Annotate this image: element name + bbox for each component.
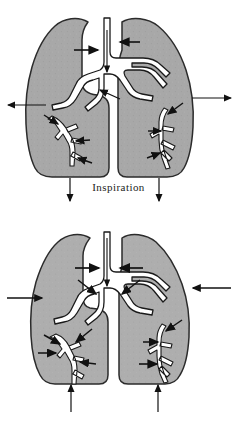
left-lung-expiration [31, 235, 108, 384]
expiration-diagram [0, 212, 237, 424]
lung-ventilation-figure: Inspiration [0, 0, 237, 424]
arrow-bronchiole-left-b-inspiration [76, 140, 90, 141]
right-lung-expiration [119, 235, 189, 384]
panel-inspiration: Inspiration [0, 0, 237, 212]
panel-expiration: Expiration [0, 212, 237, 424]
caption-inspiration: Inspiration [0, 182, 237, 193]
